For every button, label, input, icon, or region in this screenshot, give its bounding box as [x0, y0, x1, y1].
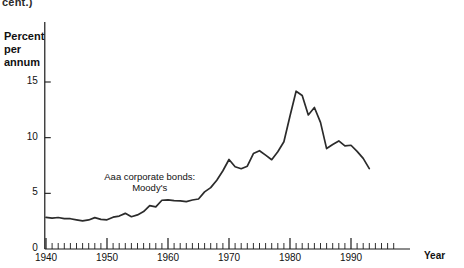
x-tick-label-1950: 1950	[87, 252, 127, 263]
x-axis-ticks	[46, 238, 394, 249]
y-tick-label-10: 10	[12, 131, 38, 142]
y-axis-ticks	[45, 82, 51, 193]
series-line-aaa-corporate-bonds	[46, 91, 369, 221]
figure-container: cent.) Percent per annum Year 051015 194…	[0, 0, 464, 268]
x-tick-label-1960: 1960	[148, 252, 188, 263]
y-tick-label-5: 5	[12, 186, 38, 197]
series-annotation-0: Aaa corporate bonds: Moody's	[90, 171, 210, 193]
chart-plot-area	[0, 0, 464, 268]
x-tick-label-1990: 1990	[331, 252, 371, 263]
y-tick-label-15: 15	[12, 75, 38, 86]
x-tick-label-1970: 1970	[209, 252, 249, 263]
x-tick-label-1980: 1980	[270, 252, 310, 263]
x-tick-label-1940: 1940	[26, 252, 66, 263]
